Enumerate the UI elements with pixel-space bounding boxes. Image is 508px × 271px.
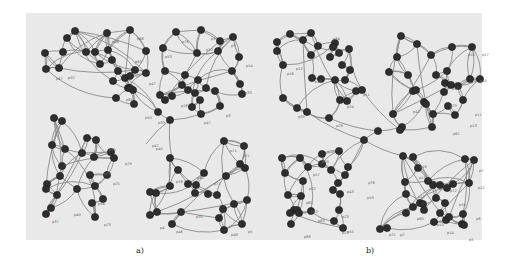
- graph-node: [193, 49, 200, 56]
- graph-node: [432, 194, 439, 201]
- node-label: p28: [336, 124, 344, 128]
- graph-node: [58, 117, 65, 124]
- graph-node: [41, 49, 48, 56]
- graph-node: [156, 91, 163, 98]
- graph-node: [110, 154, 117, 161]
- node-label: p76: [176, 180, 184, 184]
- network-figure: p88p66p63p67p02p65p47p33p76p3p3p13p53p14…: [0, 0, 508, 271]
- graph-node: [429, 110, 436, 117]
- graph-node: [202, 84, 209, 91]
- node-label: p60: [417, 217, 425, 221]
- graph-node: [409, 203, 416, 210]
- graph-node: [279, 94, 286, 101]
- graph-node: [104, 46, 111, 53]
- node-label: p50: [468, 53, 476, 57]
- graph-node: [50, 114, 57, 121]
- node-label: p23: [104, 223, 111, 227]
- graph-node: [346, 66, 353, 73]
- graph-node: [299, 36, 306, 43]
- node-label: p35: [196, 215, 203, 219]
- node-label: p71: [243, 154, 250, 158]
- graph-node: [214, 47, 221, 54]
- graph-node: [420, 206, 427, 213]
- graph-node: [293, 104, 300, 111]
- node-label: p23: [342, 215, 349, 219]
- graph-node: [465, 179, 472, 186]
- graph-node: [229, 33, 236, 40]
- hub-node: [374, 127, 381, 134]
- graph-node: [399, 152, 406, 159]
- graph-node: [53, 191, 60, 198]
- graph-node: [335, 206, 342, 213]
- graph-node: [63, 34, 70, 41]
- graph-node: [343, 97, 350, 104]
- graph-node: [329, 43, 336, 50]
- node-label: p14: [246, 64, 254, 68]
- subfigure-caption-a: a): [136, 246, 144, 255]
- graph-node: [91, 213, 98, 220]
- graph-node: [461, 155, 468, 162]
- graph-node: [55, 64, 62, 71]
- graph-node: [126, 26, 133, 33]
- graph-node: [96, 60, 103, 67]
- node-label: p40: [74, 213, 82, 217]
- graph-node: [216, 37, 223, 44]
- graph-node: [61, 145, 68, 152]
- node-label: p66: [137, 37, 145, 41]
- graph-node: [86, 171, 93, 178]
- node-label: p12: [478, 186, 485, 190]
- node-label: p10: [197, 176, 205, 180]
- graph-node: [188, 103, 195, 110]
- graph-node: [177, 208, 184, 215]
- graph-node: [83, 134, 90, 141]
- node-label: p11: [418, 195, 425, 199]
- node-label: p23: [450, 104, 457, 108]
- graph-node: [184, 86, 191, 93]
- graph-node: [197, 26, 204, 33]
- graph-node: [222, 172, 229, 179]
- node-label: p5: [248, 230, 253, 234]
- graph-node: [402, 190, 409, 197]
- node-label: p26: [181, 104, 189, 108]
- graph-node: [220, 226, 227, 233]
- graph-node: [273, 38, 280, 45]
- graph-node: [236, 80, 243, 87]
- graph-node: [325, 114, 332, 121]
- graph-node: [174, 166, 181, 173]
- graph-node: [295, 209, 302, 216]
- graph-node: [73, 185, 80, 192]
- node-label: p21: [342, 231, 349, 235]
- node-label: p47: [149, 82, 156, 86]
- graph-node: [108, 56, 115, 63]
- graph-node: [243, 196, 250, 203]
- graph-node: [228, 67, 235, 74]
- graph-node: [327, 166, 334, 173]
- graph-node: [448, 43, 455, 50]
- graph-node: [58, 162, 65, 169]
- node-label: p76: [368, 181, 376, 185]
- node-label: p3: [211, 37, 216, 41]
- node-label: p11: [475, 113, 482, 117]
- graph-node: [393, 53, 400, 60]
- graph-node: [432, 71, 439, 78]
- graph-node: [336, 190, 343, 197]
- node-label: p71: [214, 182, 221, 186]
- graph-node: [286, 209, 293, 216]
- graph-node: [191, 89, 198, 96]
- node-label: p33: [245, 91, 252, 95]
- graph-node: [168, 92, 175, 99]
- graph-node: [181, 71, 188, 78]
- graph-node: [192, 181, 199, 188]
- graph-node: [385, 68, 392, 75]
- node-label: p47: [204, 121, 211, 125]
- graph-node: [161, 67, 168, 74]
- node-label: p26: [104, 172, 112, 176]
- graph-node: [191, 189, 198, 196]
- graph-node: [172, 28, 179, 35]
- graph-node: [42, 185, 49, 192]
- graph-node: [404, 71, 411, 78]
- node-label: p52: [309, 187, 316, 191]
- graph-node: [82, 48, 89, 55]
- node-label: p24: [347, 105, 355, 109]
- graph-node: [154, 108, 161, 115]
